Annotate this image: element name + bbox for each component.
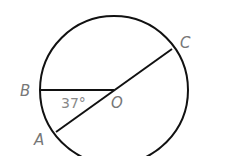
label-a: A (33, 131, 44, 149)
angle-label: 37° (61, 95, 86, 111)
label-o: O (111, 94, 123, 112)
circle (40, 16, 188, 156)
label-b: B (20, 82, 30, 100)
label-c: C (180, 34, 191, 52)
circle-diagram: B O C A 37° (0, 0, 227, 156)
